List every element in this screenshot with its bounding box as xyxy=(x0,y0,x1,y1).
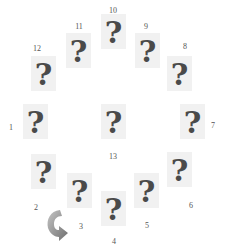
rotate-icon xyxy=(44,208,72,244)
position-label-5: 5 xyxy=(145,222,149,230)
card-2[interactable]: ? xyxy=(31,154,56,189)
question-mark-icon: ? xyxy=(70,37,88,67)
question-mark-icon: ? xyxy=(139,37,157,67)
position-label-1: 1 xyxy=(9,124,13,132)
question-mark-icon: ? xyxy=(184,108,202,138)
question-mark-icon: ? xyxy=(27,108,45,138)
card-6[interactable]: ? xyxy=(167,152,192,187)
position-label-9: 9 xyxy=(144,23,148,31)
question-mark-icon: ? xyxy=(35,60,53,90)
card-1[interactable]: ? xyxy=(23,104,48,139)
question-mark-icon: ? xyxy=(171,156,189,186)
position-label-8: 8 xyxy=(183,43,187,51)
card-9[interactable]: ? xyxy=(135,33,160,68)
question-mark-icon: ? xyxy=(105,195,123,225)
position-label-10: 10 xyxy=(109,7,117,15)
card-10[interactable]: ? xyxy=(101,14,126,49)
question-mark-icon: ? xyxy=(35,158,53,188)
position-label-2: 2 xyxy=(34,204,38,212)
clock-card-layout: ? 10 ? 11 ? 9 ? 12 ? 8 ? 1 ? 13 ? 7 ? 2 … xyxy=(0,0,229,247)
position-label-6: 6 xyxy=(189,202,193,210)
question-mark-icon: ? xyxy=(105,18,123,48)
card-3[interactable]: ? xyxy=(67,173,92,208)
card-5[interactable]: ? xyxy=(134,173,159,208)
card-13[interactable]: ? xyxy=(101,104,126,139)
question-mark-icon: ? xyxy=(71,177,89,207)
card-12[interactable]: ? xyxy=(31,56,56,91)
card-4[interactable]: ? xyxy=(101,191,126,226)
card-7[interactable]: ? xyxy=(180,104,205,139)
question-mark-icon: ? xyxy=(138,177,156,207)
rotate-arrow-button[interactable] xyxy=(44,208,72,244)
card-11[interactable]: ? xyxy=(66,33,91,68)
position-label-13: 13 xyxy=(109,153,117,161)
position-label-7: 7 xyxy=(211,122,215,130)
question-mark-icon: ? xyxy=(171,60,189,90)
position-label-3: 3 xyxy=(79,223,83,231)
position-label-11: 11 xyxy=(75,23,83,31)
question-mark-icon: ? xyxy=(105,108,123,138)
position-label-12: 12 xyxy=(33,45,41,53)
card-8[interactable]: ? xyxy=(167,56,192,91)
position-label-4: 4 xyxy=(112,238,116,246)
